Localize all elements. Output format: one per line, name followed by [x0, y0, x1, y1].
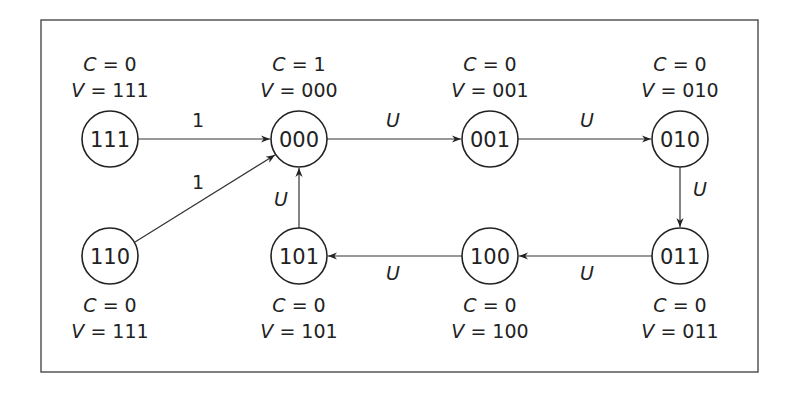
node-011-v-annotation: V = 011 — [641, 320, 718, 342]
node-010: 010 — [652, 111, 708, 167]
node-010-v-annotation: V = 010 — [641, 79, 718, 101]
state-diagram: 1 1 U U U U U U 111 000 001 010 110 101 … — [0, 0, 789, 394]
edge-110-to-000 — [135, 155, 275, 242]
edge-label-000-001: U — [386, 109, 400, 131]
node-101: 101 — [271, 228, 327, 284]
node-label: 100 — [470, 245, 510, 269]
node-111-c-annotation: C = 0 — [83, 53, 136, 75]
node-110: 110 — [82, 228, 138, 284]
edge-label-011-100: U — [580, 262, 594, 284]
node-001-c-annotation: C = 0 — [463, 53, 516, 75]
node-100-c-annotation: C = 0 — [463, 294, 516, 316]
node-001-v-annotation: V = 001 — [451, 79, 528, 101]
node-000-c-annotation: C = 1 — [272, 53, 325, 75]
node-011: 011 — [652, 228, 708, 284]
node-110-c-annotation: C = 0 — [83, 294, 136, 316]
edge-label-100-101: U — [386, 262, 400, 284]
node-001: 001 — [462, 111, 518, 167]
edge-label-010-011: U — [693, 178, 707, 200]
node-000-v-annotation: V = 000 — [260, 79, 337, 101]
node-110-v-annotation: V = 111 — [71, 320, 148, 342]
node-101-v-annotation: V = 101 — [260, 320, 337, 342]
edge-label-111-000: 1 — [192, 109, 204, 131]
node-111: 111 — [82, 111, 138, 167]
node-label: 001 — [470, 128, 510, 152]
node-label: 111 — [90, 128, 130, 152]
node-label: 010 — [660, 128, 700, 152]
edge-label-001-010: U — [580, 109, 594, 131]
node-010-c-annotation: C = 0 — [653, 53, 706, 75]
node-011-c-annotation: C = 0 — [653, 294, 706, 316]
node-000: 000 — [271, 111, 327, 167]
node-100-v-annotation: V = 100 — [451, 320, 528, 342]
node-111-v-annotation: V = 111 — [71, 79, 148, 101]
edge-label-110-000: 1 — [192, 171, 204, 193]
node-101-c-annotation: C = 0 — [272, 294, 325, 316]
node-label: 000 — [279, 128, 319, 152]
node-label: 011 — [660, 245, 700, 269]
node-label: 110 — [90, 245, 130, 269]
node-label: 101 — [279, 245, 319, 269]
node-100: 100 — [462, 228, 518, 284]
edge-label-101-000: U — [274, 188, 288, 210]
